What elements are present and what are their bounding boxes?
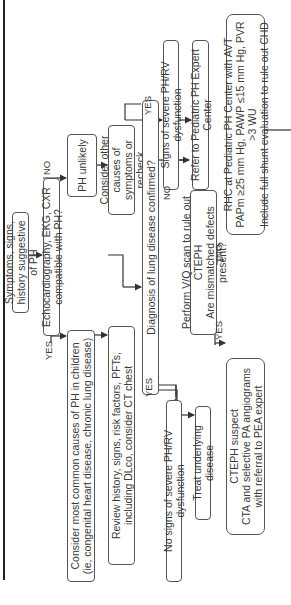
review-history-box: Review history, signs, risk factors, PFT…: [108, 326, 135, 565]
cteph-suspect-box: CTEPH suspect CTA and selective PA angio…: [226, 358, 265, 535]
echo-question-box: Echocardiography, EKG, CXR compatible wi…: [43, 178, 60, 336]
common-causes-box: Consider most common causes of PH in chi…: [67, 330, 95, 582]
treat-underlying-box: Treat underlying disease: [195, 406, 211, 520]
echo-yes-label: YES: [44, 341, 54, 360]
symptoms-box: Symptoms, signs, history suggestive of P…: [12, 212, 29, 313]
no-signs-severe-box: No signs of severe PH/RV dysfunction: [166, 400, 182, 582]
other-causes-box: Consider other causes of symptoms or rec…: [108, 125, 135, 215]
lung-yes-right-label: YES: [143, 96, 153, 115]
vq-no-label: NO: [214, 244, 224, 258]
rhc-box: RHC at Pediatric PH Center with AVT PAPm…: [226, 14, 265, 235]
signs-severe-box: Signs of severe PH/RV dysfunction: [163, 40, 179, 190]
flowchart-diagram: Symptoms, signs, history suggestive of P…: [0, 0, 291, 605]
refer-expert-center-box: Refer to Pediatric PH Expert Center: [192, 40, 209, 190]
vq-yes-label: YES: [214, 321, 224, 340]
echo-no-label: NO: [42, 161, 52, 175]
ph-unlikely-box: PH unlikely: [67, 134, 97, 197]
lung-disease-question-box: Diagnosis of lung disease confirmed?: [142, 100, 159, 395]
lung-no-label: NO: [162, 186, 172, 200]
vq-scan-question-box: Perform V/Q scan to rule out CTEPH Are m…: [190, 190, 217, 335]
lung-yes-label: YES: [144, 378, 154, 397]
